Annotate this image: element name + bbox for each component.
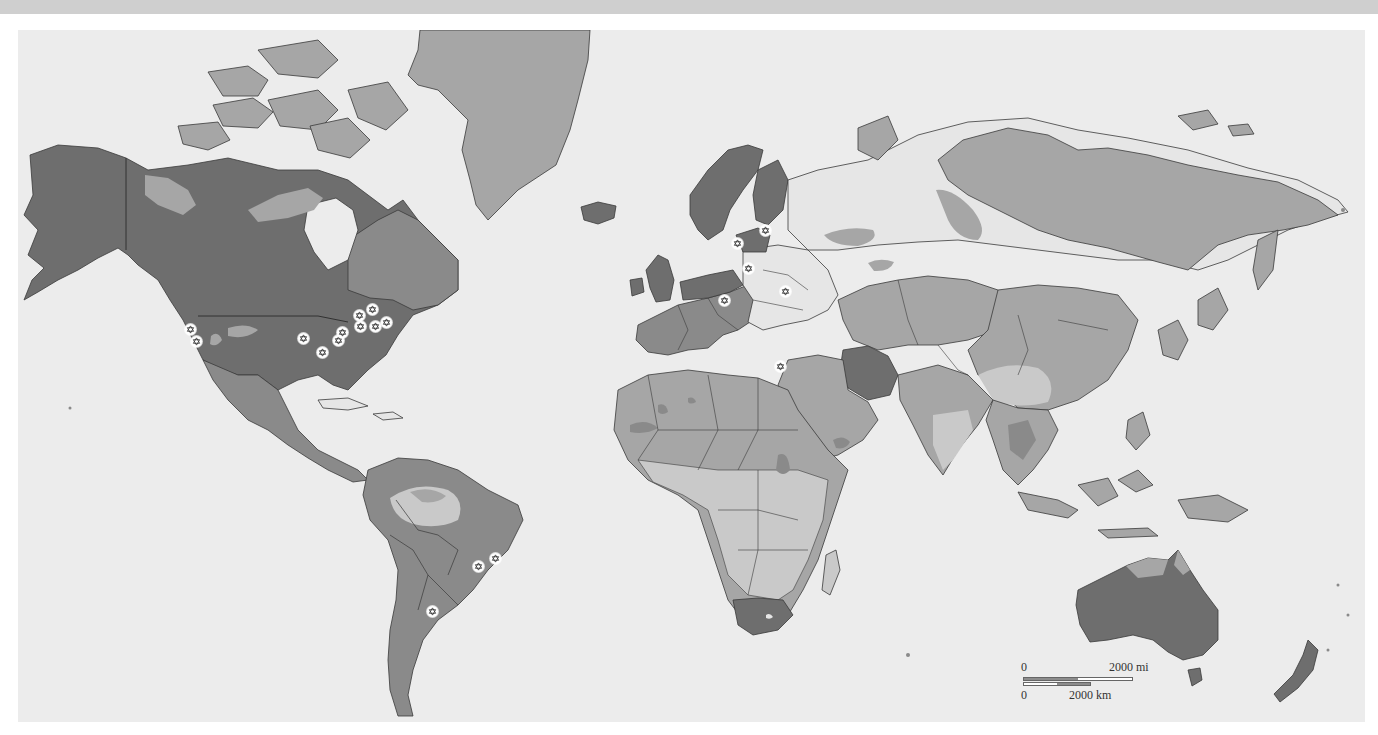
star-of-david-marker[interactable] (760, 225, 771, 236)
star-of-david-marker[interactable] (780, 286, 791, 297)
star-of-david-marker[interactable] (490, 553, 501, 564)
star-of-david-marker[interactable] (381, 317, 392, 328)
star-of-david-icon (192, 337, 201, 346)
star-of-david-icon (761, 226, 770, 235)
star-of-david-icon (733, 239, 742, 248)
star-of-david-marker[interactable] (355, 321, 366, 332)
star-of-david-marker[interactable] (473, 561, 484, 572)
star-of-david-marker[interactable] (370, 321, 381, 332)
star-of-david-icon (356, 322, 365, 331)
star-of-david-marker[interactable] (317, 347, 328, 358)
star-of-david-icon (744, 264, 753, 273)
star-of-david-icon (318, 348, 327, 357)
star-of-david-marker[interactable] (732, 238, 743, 249)
star-of-david-icon (720, 296, 729, 305)
star-of-david-icon (371, 322, 380, 331)
star-of-david-icon (382, 318, 391, 327)
star-of-david-marker[interactable] (719, 295, 730, 306)
star-of-david-marker[interactable] (367, 304, 378, 315)
star-of-david-icon (781, 287, 790, 296)
star-of-david-icon (186, 325, 195, 334)
top-strip (0, 0, 1378, 14)
star-of-david-marker[interactable] (298, 333, 309, 344)
star-of-david-marker[interactable] (185, 324, 196, 335)
markers-layer (18, 30, 1365, 722)
star-of-david-icon (368, 305, 377, 314)
star-of-david-marker[interactable] (191, 336, 202, 347)
star-of-david-marker[interactable] (337, 327, 348, 338)
star-of-david-icon (474, 562, 483, 571)
star-of-david-icon (428, 607, 437, 616)
star-of-david-icon (299, 334, 308, 343)
star-of-david-marker[interactable] (427, 606, 438, 617)
star-of-david-icon (355, 311, 364, 320)
star-of-david-marker[interactable] (354, 310, 365, 321)
star-of-david-icon (338, 328, 347, 337)
world-map[interactable]: 0 2000 mi 0 2000 km (18, 30, 1365, 722)
star-of-david-marker[interactable] (743, 263, 754, 274)
star-of-david-marker[interactable] (775, 361, 786, 372)
star-of-david-icon (776, 362, 785, 371)
star-of-david-icon (491, 554, 500, 563)
